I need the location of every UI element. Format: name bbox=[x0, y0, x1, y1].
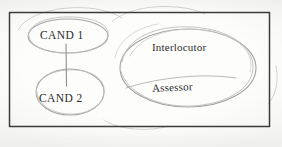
sketch-canvas: CAND 1 CAND 2 Interlocutor Assessor bbox=[0, 0, 282, 147]
cand1-cand2-connector bbox=[66, 44, 67, 86]
cand1-label: CAND 1 bbox=[40, 29, 84, 41]
assessor-label: Assessor bbox=[152, 80, 193, 94]
interlocutor-label: Interlocutor bbox=[152, 41, 206, 53]
cand2-label: CAND 2 bbox=[39, 92, 83, 104]
hand-drawn-diagram bbox=[0, 0, 282, 147]
stray-arc-bottom bbox=[104, 120, 168, 129]
stray-arc-top-mid bbox=[112, 6, 205, 22]
